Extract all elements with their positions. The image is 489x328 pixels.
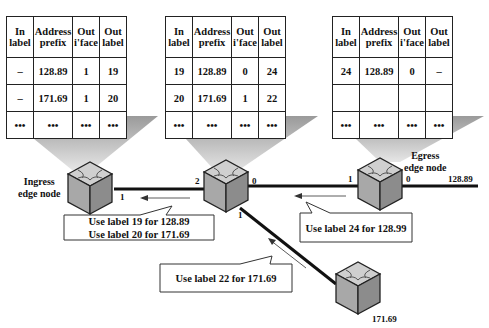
router-bottom-icon [336,262,380,314]
router-ingress-icon [68,162,112,214]
ingress-node-label: Ingressedge node [18,176,61,200]
router-egress-icon [358,158,402,210]
router-core-icon [204,160,248,212]
port-egress-0: 0 [406,174,411,184]
port-core-0: 0 [252,176,257,186]
port-core-1: 1 [238,210,243,220]
port-egress-1: 1 [348,174,353,184]
egress-node-label: Egressedge node [404,150,447,174]
callout-ingress: Use label 19 for 128.89Use label 20 for … [64,215,214,241]
dest-171-69: 171.69 [372,314,397,324]
label-table-egress: In labelAddress prefixOut i'faceOut labe… [332,16,453,139]
label-table-ingress: In labelAddress prefixOut i'faceOut labe… [6,16,127,139]
callout-egress: Use label 24 for 128.99 [300,222,412,235]
port-ingress-1: 1 [120,192,125,202]
port-core-2: 2 [195,176,200,186]
callout-bottom: Use label 22 for 171.69 [160,272,292,285]
dest-128-89: 128.89 [448,174,473,184]
label-table-core: In labelAddress prefixOut i'faceOut labe… [165,16,286,139]
